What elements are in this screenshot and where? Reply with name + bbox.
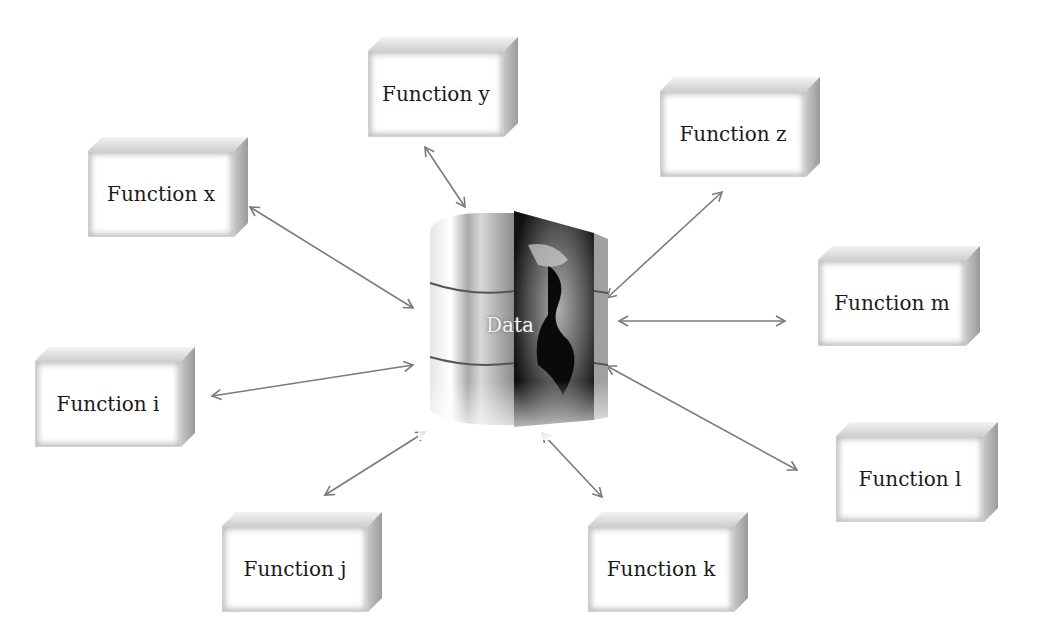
box-front-face: Function k [588,526,734,612]
bidirectional-arrow-k [542,433,602,497]
function-label: Function y [382,82,490,106]
box-front-face: Function m [818,260,966,346]
function-label: Function j [244,557,347,581]
function-label: Function l [859,467,962,491]
box-side-face [504,37,518,137]
box-side-face [806,77,820,177]
bidirectional-arrow-i [212,365,413,396]
function-box-l: Function l [836,422,998,522]
function-box-i: Function i [35,347,195,447]
function-box-j: Function j [222,512,382,612]
box-front-face: Function z [660,91,806,177]
box-side-face [984,422,998,522]
box-side-face [368,512,382,612]
box-top-face [368,37,518,51]
function-box-x: Function x [88,137,248,237]
box-top-face [588,512,748,526]
box-front-face: Function x [88,151,234,237]
box-front-face: Function j [222,526,368,612]
function-label: Function i [57,392,160,416]
function-label: Function m [834,291,950,315]
box-side-face [966,246,980,346]
data-label: Data [486,313,534,337]
box-top-face [88,137,248,151]
function-box-z: Function z [660,77,820,177]
box-top-face [222,512,382,526]
function-label: Function k [607,557,716,581]
box-side-face [234,137,248,237]
box-top-face [35,347,195,361]
function-box-m: Function m [818,246,980,346]
box-top-face [836,422,998,436]
function-box-y: Function y [368,37,518,137]
box-side-face [181,347,195,447]
box-front-face: Function y [368,51,504,137]
bidirectional-arrow-z [607,192,722,298]
box-top-face [818,246,980,260]
box-front-face: Function i [35,361,181,447]
bidirectional-arrow-y [425,147,465,207]
function-label: Function x [107,182,215,206]
bidirectional-arrow-x [250,207,413,308]
bidirectional-arrow-j [325,432,425,495]
box-front-face: Function l [836,436,984,522]
bidirectional-arrow-l [607,366,797,470]
function-box-k: Function k [588,512,748,612]
function-label: Function z [679,122,786,146]
box-side-face [734,512,748,612]
box-top-face [660,77,820,91]
